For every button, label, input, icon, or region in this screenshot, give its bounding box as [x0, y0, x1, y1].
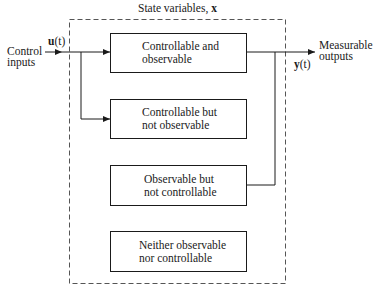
title-symbol: x — [211, 2, 217, 14]
block-neither: Neither observablenor controllable — [110, 231, 247, 272]
state-variables-title: State variables, x — [138, 2, 217, 14]
output-signal-label: y(t) — [294, 58, 311, 70]
block-text: Observable but — [144, 173, 217, 186]
control-inputs-label: Control inputs — [7, 46, 42, 68]
block-controllable-observable: Controllable andobservable — [110, 33, 247, 73]
block-text: Neither observable — [139, 239, 226, 252]
title-text: State variables, — [138, 2, 211, 14]
block-text: observable — [142, 53, 219, 66]
input-signal-arg: (t) — [54, 35, 65, 47]
block-text: nor controllable — [139, 252, 226, 265]
input-signal-label: u(t) — [48, 35, 65, 47]
block-text: Controllable and — [142, 40, 219, 53]
block-text: not controllable — [144, 186, 217, 199]
block-controllable-not-observable: Controllable butnot observable — [110, 99, 247, 139]
output-label-line2: outputs — [319, 51, 373, 62]
output-signal-arg: (t) — [300, 58, 311, 70]
input-label-line2: inputs — [7, 57, 42, 68]
block-text: Controllable but — [142, 106, 217, 119]
block-text: not observable — [142, 119, 217, 132]
block-observable-not-controllable: Observable butnot controllable — [110, 165, 247, 206]
measurable-outputs-label: Measurable outputs — [319, 40, 373, 62]
